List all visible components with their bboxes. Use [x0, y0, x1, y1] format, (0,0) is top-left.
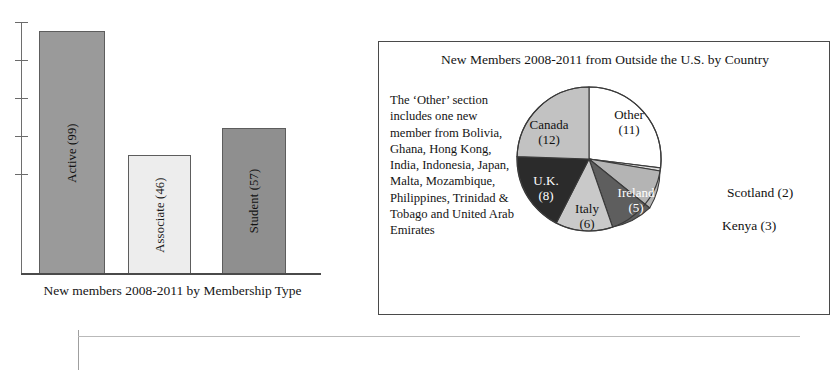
figure-canvas: Active (99) Associate (46) Student (57) …	[0, 0, 835, 370]
pie-slice-other	[589, 87, 661, 168]
bar-chart: Active (99) Associate (46) Student (57) …	[0, 0, 345, 310]
bar-chart-x-axis	[21, 273, 321, 275]
pie-svg	[489, 59, 689, 259]
bar-associate-label: Associate (46)	[152, 177, 167, 252]
bar-active-label: Active (99)	[65, 123, 80, 182]
bar-active: Active (99)	[39, 31, 105, 274]
bar-associate: Associate (46)	[128, 155, 191, 274]
bar-student: Student (57)	[222, 128, 286, 274]
bar-student-label: Student (57)	[247, 169, 262, 234]
pie-chart-panel: New Members 2008-2011 from Outside the U…	[378, 41, 830, 315]
bottom-rule	[78, 336, 800, 337]
pie-callout-scotland: Scotland (2)	[727, 185, 793, 201]
pie-callout-kenya: Kenya (3)	[722, 218, 776, 234]
bar-chart-caption: New members 2008-2011 by Membership Type	[0, 283, 345, 299]
bar-plot-area: Active (99) Associate (46) Student (57)	[0, 0, 345, 274]
pie-chart-graphic: Other (11) Canada (12) U.K. (8) Italy (6…	[489, 59, 689, 259]
pie-slice-canada	[517, 87, 589, 159]
